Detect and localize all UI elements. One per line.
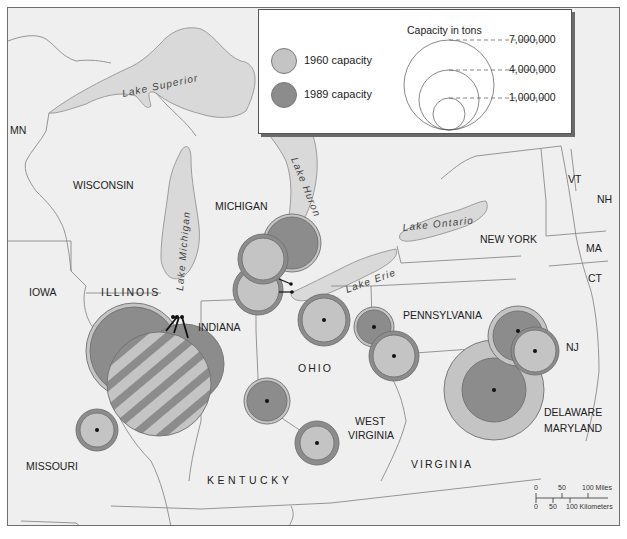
- label-ohio: OHIO: [298, 362, 333, 374]
- label-missouri: MISSOURI: [26, 460, 78, 472]
- label-nh: NH: [597, 193, 612, 205]
- scale-miles-100: 100 Miles: [582, 484, 612, 491]
- label-ma: MA: [586, 242, 602, 254]
- legend: 1960 capacity 1989 capacity Capacity in …: [258, 9, 572, 134]
- scale-km-100: 100 Kilometers: [566, 503, 613, 510]
- lake-superior-shape: [49, 28, 255, 118]
- label-vt: VT: [568, 173, 582, 185]
- legend-value-7m: 7,000,000: [509, 33, 556, 45]
- label-mn: MN: [10, 124, 26, 136]
- label-indiana: INDIANA: [198, 321, 241, 333]
- label-pennsylvania: PENNSYLVANIA: [403, 309, 482, 321]
- label-new-york: NEW YORK: [480, 233, 537, 245]
- label-iowa: IOWA: [29, 286, 57, 298]
- label-michigan: MICHIGAN: [215, 200, 268, 212]
- gary-striped-disk: [107, 332, 211, 436]
- scale-bar: 0 50 100 Miles 0 50 100 Kilometers: [518, 483, 613, 513]
- scale-km-0: 0: [534, 503, 538, 510]
- label-kentucky: KENTUCKY: [207, 474, 292, 486]
- legend-value-1m: 1,000,000: [509, 91, 556, 103]
- toledo-1960-disk: [242, 238, 284, 280]
- label-maryland: MARYLAND: [544, 422, 603, 434]
- label-wisconsin: WISCONSIN: [73, 179, 134, 191]
- scale-miles-50: 50: [558, 484, 566, 491]
- label-west-virginia-2: VIRGINIA: [348, 429, 394, 441]
- scale-miles-0: 0: [534, 484, 538, 491]
- label-virginia: VIRGINIA: [411, 458, 473, 470]
- label-delaware: DELAWARE: [544, 406, 602, 418]
- capacity-symbols: [76, 214, 559, 465]
- scale-km-50: 50: [549, 503, 557, 510]
- label-nj: NJ: [566, 341, 579, 353]
- label-ct: CT: [588, 272, 603, 284]
- label-illinois: ILLINOIS: [101, 286, 160, 298]
- label-west-virginia-1: WEST: [355, 415, 386, 427]
- legend-value-4m: 4,000,000: [509, 63, 556, 75]
